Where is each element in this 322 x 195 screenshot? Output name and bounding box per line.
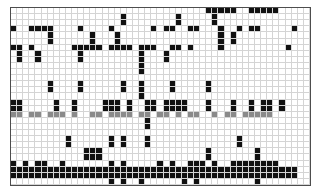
- heatmap-cell-grid: [11, 8, 310, 185]
- heatmap-cell: [304, 179, 310, 185]
- binary-matrix-figure: [0, 0, 322, 195]
- heatmap-plot-area: [10, 7, 311, 186]
